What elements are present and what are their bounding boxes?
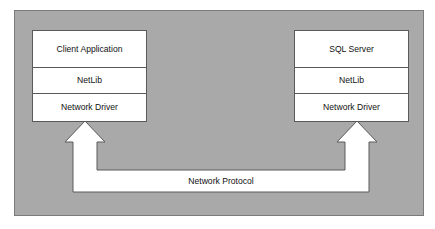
client-stack-layer-client-application-label: Client Application [57, 44, 123, 54]
diagram-canvas: Network Protocol Client Application NetL… [0, 0, 435, 229]
network-protocol-label: Network Protocol [188, 176, 254, 186]
server-stack-layer-netlib-label: NetLib [339, 75, 364, 85]
client-stack-layer-netlib-label: NetLib [77, 75, 102, 85]
diagram-root: Network Protocol Client Application NetL… [0, 0, 435, 229]
client-stack-layer-network-driver-label: Network Driver [61, 102, 118, 112]
server-stack-layer-network-driver-label: Network Driver [323, 102, 380, 112]
server-stack: SQL Server NetLib Network Driver [295, 31, 409, 122]
client-stack: Client Application NetLib Network Driver [33, 31, 147, 122]
server-stack-layer-sql-server-label: SQL Server [329, 44, 374, 54]
